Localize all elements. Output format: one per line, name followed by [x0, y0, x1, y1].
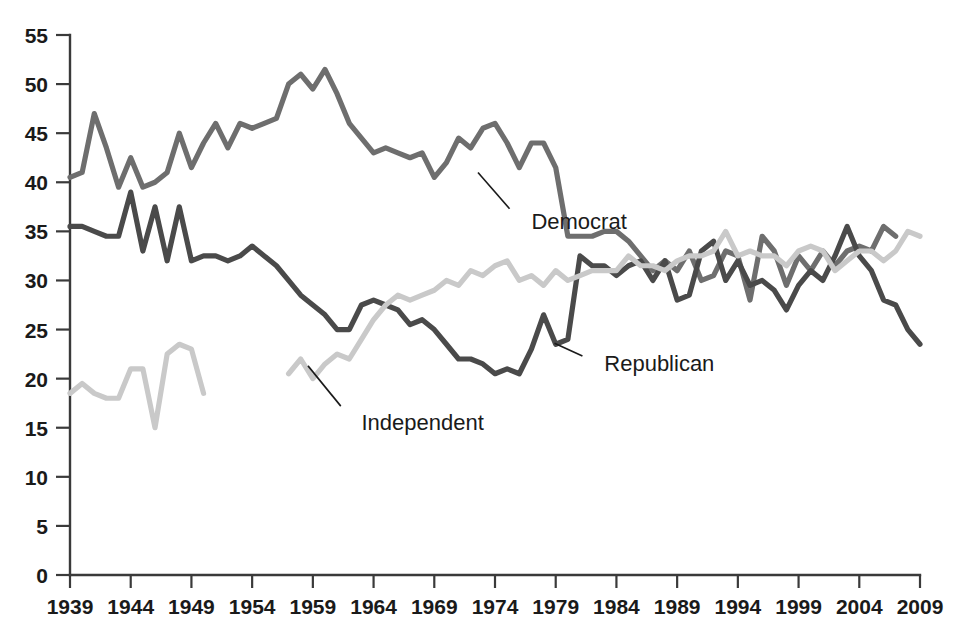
leader-line-republican: [555, 343, 583, 356]
x-tick-label: 2009: [897, 595, 944, 618]
y-tick-label: 0: [36, 564, 48, 587]
series-label-independent: Independent: [361, 410, 483, 435]
y-tick-label: 35: [25, 220, 49, 243]
y-tick-label: 5: [36, 515, 48, 538]
y-axis-ticks: 0510152025303540455055: [25, 24, 70, 587]
y-tick-label: 30: [25, 269, 48, 292]
x-tick-label: 1989: [654, 595, 701, 618]
x-tick-label: 2004: [836, 595, 883, 618]
x-tick-label: 1974: [472, 595, 519, 618]
x-tick-label: 1984: [593, 595, 640, 618]
x-tick-label: 1949: [168, 595, 215, 618]
y-tick-label: 55: [25, 24, 49, 47]
series-line-democrat: [70, 69, 896, 300]
chart-canvas: 0510152025303540455055 19391944194919541…: [0, 0, 963, 630]
leader-line-democrat: [478, 172, 510, 208]
leader-line-independent: [308, 366, 341, 406]
x-tick-label: 1999: [775, 595, 822, 618]
y-tick-label: 15: [25, 417, 49, 440]
x-axis-ticks: 1939194419491954195919641969197419791984…: [47, 575, 944, 618]
y-tick-label: 50: [25, 73, 48, 96]
x-tick-label: 1939: [47, 595, 94, 618]
series-lines: [70, 69, 920, 427]
y-tick-label: 20: [25, 368, 48, 391]
y-tick-label: 40: [25, 171, 48, 194]
series-label-democrat: Democrat: [531, 209, 626, 234]
x-tick-label: 1959: [289, 595, 336, 618]
x-tick-label: 1979: [532, 595, 579, 618]
series-line-republican: [70, 192, 920, 374]
x-tick-label: 1994: [714, 595, 761, 618]
x-tick-label: 1954: [229, 595, 276, 618]
y-tick-label: 25: [25, 319, 49, 342]
party-identification-line-chart: 0510152025303540455055 19391944194919541…: [0, 0, 963, 630]
series-label-republican: Republican: [604, 351, 714, 376]
x-tick-label: 1964: [350, 595, 397, 618]
x-tick-label: 1969: [411, 595, 458, 618]
x-tick-label: 1944: [107, 595, 154, 618]
y-tick-label: 10: [25, 466, 48, 489]
series-line-independent: [70, 344, 204, 427]
y-tick-label: 45: [25, 122, 49, 145]
